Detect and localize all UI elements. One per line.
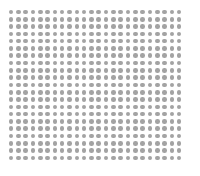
grid-dot-marker <box>162 39 167 44</box>
grid-dot-marker <box>140 24 145 29</box>
dot-cell <box>154 118 161 125</box>
grid-dot-marker <box>140 119 145 124</box>
dot-cell <box>154 89 161 96</box>
dot-cell <box>88 96 95 103</box>
grid-dot-marker <box>133 90 138 95</box>
dot-cell <box>51 30 58 37</box>
grid-dot-marker <box>23 53 28 58</box>
dot-cell <box>15 8 22 15</box>
grid-dot-marker <box>104 10 109 15</box>
grid-dot-marker <box>89 75 94 80</box>
dot-cell <box>51 132 58 139</box>
grid-dot-marker <box>140 39 145 44</box>
grid-dot-marker <box>31 61 36 66</box>
grid-dot-marker <box>53 126 58 131</box>
dot-cell <box>7 89 14 96</box>
grid-dot-marker <box>89 68 94 73</box>
grid-dot-marker <box>162 134 167 139</box>
dot-cell <box>95 125 102 132</box>
grid-dot-marker <box>16 46 21 51</box>
dot-cell <box>15 147 22 154</box>
grid-dot-marker <box>45 39 50 44</box>
dot-cell <box>110 81 117 88</box>
dot-cell <box>154 67 161 74</box>
grid-dot-marker <box>9 39 14 44</box>
grid-dot-marker <box>162 24 167 29</box>
grid-dot-marker <box>118 112 123 117</box>
grid-dot-marker <box>9 148 14 153</box>
grid-dot-marker <box>177 134 182 139</box>
grid-dot-marker <box>45 141 50 146</box>
grid-dot-marker <box>60 24 65 29</box>
dot-cell <box>88 103 95 110</box>
dot-cell <box>88 8 95 15</box>
dot-cell <box>59 111 66 118</box>
grid-dot-marker <box>96 61 101 66</box>
grid-dot-marker <box>104 68 109 73</box>
grid-dot-marker <box>177 90 182 95</box>
dot-cell <box>66 125 73 132</box>
grid-dot-marker <box>9 134 14 139</box>
grid-dot-marker <box>53 134 58 139</box>
dot-cell <box>110 67 117 74</box>
dot-cell <box>117 74 124 81</box>
dot-cell <box>15 81 22 88</box>
grid-dot-marker <box>38 17 43 22</box>
grid-dot-marker <box>75 97 80 102</box>
grid-dot-marker <box>82 97 87 102</box>
dot-cell <box>146 30 153 37</box>
grid-dot-marker <box>170 141 175 146</box>
dot-cell <box>146 38 153 45</box>
dot-cell <box>44 140 51 147</box>
grid-dot-marker <box>67 112 72 117</box>
dot-cell <box>110 59 117 66</box>
dot-cell <box>154 111 161 118</box>
grid-dot-marker <box>89 141 94 146</box>
grid-dot-marker <box>155 53 160 58</box>
grid-dot-marker <box>9 126 14 131</box>
dot-cell <box>37 16 44 23</box>
grid-dot-marker <box>75 141 80 146</box>
dot-cell <box>22 52 29 59</box>
dot-cell <box>154 132 161 139</box>
grid-dot-marker <box>126 156 131 161</box>
dot-cell <box>73 118 80 125</box>
grid-dot-marker <box>104 24 109 29</box>
dot-cell <box>37 38 44 45</box>
dot-cell <box>29 140 36 147</box>
grid-dot-marker <box>148 112 153 117</box>
dot-cell <box>161 103 168 110</box>
dot-cell <box>59 96 66 103</box>
dot-cell <box>168 111 175 118</box>
dot-cell <box>88 23 95 30</box>
grid-dot-marker <box>126 112 131 117</box>
grid-dot-marker <box>67 10 72 15</box>
dot-cell <box>117 81 124 88</box>
grid-dot-marker <box>31 148 36 153</box>
grid-dot-marker <box>155 119 160 124</box>
grid-dot-marker <box>162 10 167 15</box>
dot-cell <box>161 140 168 147</box>
grid-dot-marker <box>23 46 28 51</box>
grid-dot-marker <box>155 10 160 15</box>
grid-dot-marker <box>155 61 160 66</box>
grid-dot-marker <box>133 10 138 15</box>
dot-cell <box>51 81 58 88</box>
grid-dot-marker <box>148 156 153 161</box>
grid-dot-marker <box>177 119 182 124</box>
grid-dot-marker <box>111 148 116 153</box>
dot-cell <box>124 118 131 125</box>
dot-cell <box>102 81 109 88</box>
dot-cell <box>80 81 87 88</box>
dot-cell <box>88 132 95 139</box>
grid-dot-marker <box>9 68 14 73</box>
dot-cell <box>59 59 66 66</box>
grid-dot-marker <box>31 68 36 73</box>
dot-cell <box>154 23 161 30</box>
dot-cell <box>139 59 146 66</box>
dot-cell <box>176 30 183 37</box>
dot-cell <box>7 154 14 161</box>
dot-cell <box>124 132 131 139</box>
grid-dot-marker <box>148 17 153 22</box>
dot-cell <box>102 96 109 103</box>
